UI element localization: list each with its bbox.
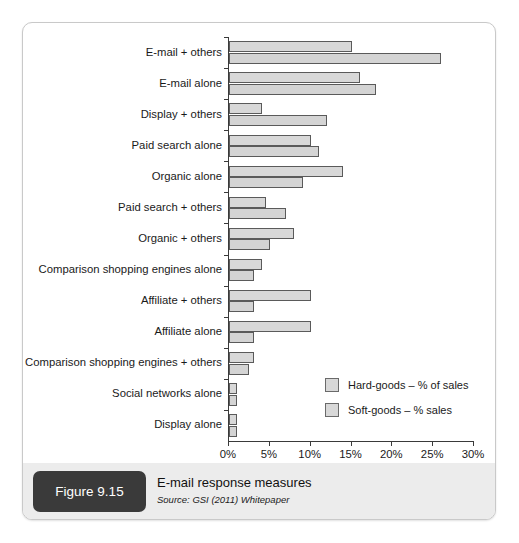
x-axis-tick-label: 30%	[462, 448, 485, 460]
y-axis-group-tick	[224, 286, 228, 287]
legend-label-hard-goods: Hard-goods – % of sales	[348, 379, 468, 391]
figure-source: Source: GSI (2011) Whitepaper	[157, 494, 312, 505]
y-axis-group-tick	[224, 223, 228, 224]
bar-soft-goods	[229, 53, 441, 64]
category-label: Organic alone	[152, 171, 222, 182]
bar-hard-goods	[229, 290, 311, 301]
category-label: Comparison shopping engines + others	[25, 357, 222, 368]
figure-caption-bar: Figure 9.15 E-mail response measures Sou…	[23, 463, 495, 520]
bar-soft-goods	[229, 426, 237, 437]
bar-hard-goods	[229, 103, 262, 114]
category-label: Comparison shopping engines alone	[39, 264, 222, 275]
y-axis-group-tick	[224, 130, 228, 131]
bar-soft-goods	[229, 239, 270, 250]
y-axis-group-tick	[224, 255, 228, 256]
x-axis-tick-mark	[228, 441, 229, 446]
figure-container: E-mail + othersE-mail aloneDisplay + oth…	[22, 22, 496, 520]
chart-area: E-mail + othersE-mail aloneDisplay + oth…	[23, 23, 495, 463]
figure-number-label: Figure 9.15	[55, 484, 123, 499]
category-label: Display alone	[154, 419, 222, 430]
bar-soft-goods	[229, 115, 327, 126]
legend-swatch-soft-goods	[325, 403, 339, 417]
category-label: Affiliate + others	[141, 295, 222, 306]
category-label: Display + others	[141, 109, 222, 120]
x-axis-tick-mark	[432, 441, 433, 446]
x-axis-tick-label: 20%	[380, 448, 403, 460]
bar-soft-goods	[229, 208, 286, 219]
y-axis-group-tick	[224, 379, 228, 380]
category-label: Affiliate alone	[154, 326, 222, 337]
x-axis-tick-label: 15%	[339, 448, 362, 460]
y-axis-group-tick	[224, 99, 228, 100]
y-axis-group-tick	[224, 68, 228, 69]
bar-hard-goods	[229, 166, 343, 177]
bar-soft-goods	[229, 177, 303, 188]
bar-hard-goods	[229, 135, 311, 146]
y-axis-group-tick	[224, 37, 228, 38]
bar-hard-goods	[229, 228, 294, 239]
category-label: Paid search + others	[118, 202, 222, 213]
bar-soft-goods	[229, 301, 254, 312]
bar-soft-goods	[229, 364, 249, 375]
bar-hard-goods	[229, 72, 360, 83]
y-axis-group-tick	[224, 410, 228, 411]
figure-number-badge: Figure 9.15	[33, 471, 146, 512]
x-axis-tick-mark	[310, 441, 311, 446]
bar-hard-goods	[229, 414, 237, 425]
y-axis-group-tick	[224, 161, 228, 162]
legend-swatch-hard-goods	[325, 378, 339, 392]
x-axis-tick-label: 10%	[298, 448, 321, 460]
bar-hard-goods	[229, 352, 254, 363]
legend-item-hard-goods: Hard-goods – % of sales	[325, 378, 468, 392]
bar-hard-goods	[229, 383, 237, 394]
bar-hard-goods	[229, 197, 266, 208]
category-label: Paid search alone	[132, 140, 222, 151]
x-axis-tick-mark	[473, 441, 474, 446]
category-label: E-mail + others	[146, 47, 222, 58]
bar-hard-goods	[229, 41, 352, 52]
y-axis-group-tick	[224, 192, 228, 193]
x-axis-tick-mark	[269, 441, 270, 446]
y-axis-group-tick	[224, 348, 228, 349]
category-label: E-mail alone	[159, 78, 222, 89]
bar-hard-goods	[229, 259, 262, 270]
bar-soft-goods	[229, 270, 254, 281]
chart-legend: Hard-goods – % of sales Soft-goods – % s…	[325, 378, 468, 428]
legend-label-soft-goods: Soft-goods – % sales	[348, 404, 452, 416]
bar-hard-goods	[229, 321, 311, 332]
category-label: Social networks alone	[112, 388, 222, 399]
y-axis-group-tick	[224, 317, 228, 318]
x-axis-tick-mark	[351, 441, 352, 446]
bar-soft-goods	[229, 84, 376, 95]
bar-soft-goods	[229, 332, 254, 343]
category-label: Organic + others	[138, 233, 222, 244]
bar-soft-goods	[229, 395, 237, 406]
bar-soft-goods	[229, 146, 319, 157]
x-axis-tick-label: 25%	[421, 448, 444, 460]
x-axis-tick-label: 0%	[220, 448, 236, 460]
figure-caption-text: E-mail response measures Source: GSI (20…	[157, 476, 312, 505]
legend-item-soft-goods: Soft-goods – % sales	[325, 403, 468, 417]
figure-title: E-mail response measures	[157, 476, 312, 491]
x-axis-tick-label: 5%	[261, 448, 277, 460]
x-axis-tick-mark	[391, 441, 392, 446]
